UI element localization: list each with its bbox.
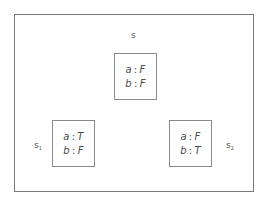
separator: :	[134, 64, 138, 75]
state-label-s: s	[131, 30, 136, 43]
variable-name: b	[180, 145, 187, 156]
separator: :	[189, 145, 193, 156]
state-label-subscript: 1	[39, 145, 42, 151]
truth-value: F	[78, 145, 84, 156]
state-label-s1: s1	[34, 140, 42, 153]
state-box-s2: a:F b:T	[169, 120, 212, 167]
assignment-row-a: a:F	[125, 64, 145, 76]
state-box-s: a:F b:F	[114, 53, 157, 100]
truth-value: F	[140, 64, 146, 75]
variable-name: b	[63, 145, 70, 156]
truth-value: F	[140, 78, 146, 89]
separator: :	[72, 145, 76, 156]
separator: :	[72, 131, 76, 142]
assignment-row-b: b:F	[63, 145, 83, 157]
separator: :	[189, 131, 193, 142]
truth-value: F	[195, 131, 201, 142]
assignment-row-a: a:F	[180, 131, 200, 143]
truth-value: T	[194, 145, 200, 156]
state-label-text: s	[131, 30, 136, 40]
state-box-s1: a:T b:F	[52, 120, 95, 167]
state-label-subscript: 2	[231, 145, 234, 151]
assignment-row-b: b:F	[125, 78, 145, 90]
assignment-row-b: b:T	[180, 145, 201, 157]
truth-value: T	[77, 131, 83, 142]
separator: :	[134, 78, 138, 89]
variable-name: a	[125, 64, 131, 75]
variable-name: b	[125, 78, 132, 89]
variable-name: a	[63, 131, 69, 142]
assignment-row-a: a:T	[63, 131, 84, 143]
variable-name: a	[180, 131, 186, 142]
state-label-s2: s2	[226, 140, 234, 153]
